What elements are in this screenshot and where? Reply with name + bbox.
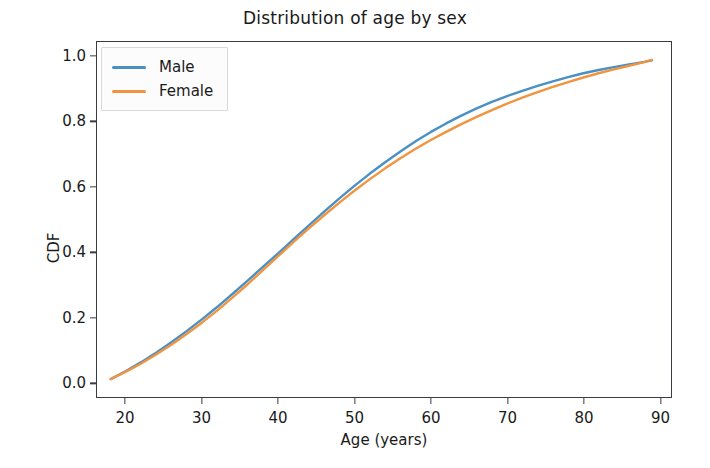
y-tick-label: 0.6 xyxy=(62,178,86,196)
x-tick-mark xyxy=(660,398,661,404)
legend-label: Female xyxy=(159,82,213,100)
legend-label: Male xyxy=(159,58,195,76)
y-tick-label: 0.2 xyxy=(62,309,86,327)
y-tick-label: 0.4 xyxy=(62,243,86,261)
x-tick-mark xyxy=(583,398,584,404)
y-tick-label: 1.0 xyxy=(62,47,86,65)
x-tick-mark xyxy=(507,398,508,404)
x-tick-label: 80 xyxy=(574,409,593,427)
x-tick-mark xyxy=(430,398,431,404)
y-tick-label: 0.8 xyxy=(62,112,86,130)
legend-swatch-female xyxy=(112,90,146,93)
x-tick-mark xyxy=(277,398,278,404)
x-tick-label: 60 xyxy=(421,409,440,427)
x-tick-label: 20 xyxy=(116,409,135,427)
x-tick-mark xyxy=(201,398,202,404)
chart-title: Distribution of age by sex xyxy=(0,8,710,28)
y-axis-label: CDF xyxy=(45,188,63,308)
x-tick-mark xyxy=(354,398,355,404)
x-tick-label: 40 xyxy=(269,409,288,427)
chart-legend: MaleFemale xyxy=(101,47,228,111)
plot-area: MaleFemale xyxy=(96,41,672,398)
y-axis: CDF 0.00.20.40.60.81.0 xyxy=(0,41,96,398)
chart-figure: Distribution of age by sex CDF 0.00.20.4… xyxy=(0,0,710,468)
legend-item-male[interactable]: Male xyxy=(112,55,213,79)
legend-item-female[interactable]: Female xyxy=(112,79,213,103)
x-axis: Age (years) 2030405060708090 xyxy=(96,398,672,458)
x-tick-mark xyxy=(124,398,125,404)
x-axis-label: Age (years) xyxy=(96,431,672,449)
x-tick-label: 70 xyxy=(498,409,517,427)
x-tick-label: 30 xyxy=(192,409,211,427)
x-tick-label: 90 xyxy=(651,409,670,427)
y-tick-label: 0.0 xyxy=(62,374,86,392)
legend-swatch-male xyxy=(112,66,146,69)
x-tick-label: 50 xyxy=(345,409,364,427)
